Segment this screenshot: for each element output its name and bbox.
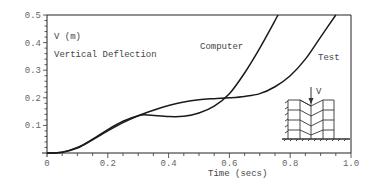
series-line-test xyxy=(47,15,336,153)
inset-load-label: V xyxy=(316,87,322,97)
x-axis: 00.20.40.60.81.0 xyxy=(44,153,359,169)
y-axis-label: V (m) xyxy=(54,32,81,42)
y-tick-label: 0.2 xyxy=(25,94,41,104)
chart: 0.10.20.30.40.5 00.20.40.60.81.0 V (m) V… xyxy=(0,0,378,189)
x-tick-label: 0.8 xyxy=(282,159,298,169)
series-line-computer xyxy=(47,15,278,153)
series-label-test: Test xyxy=(318,53,340,63)
x-tick-label: 1.0 xyxy=(343,159,359,169)
x-tick-label: 0.6 xyxy=(221,159,237,169)
x-tick-label: 0.2 xyxy=(100,159,116,169)
x-tick-label: 0 xyxy=(44,159,49,169)
y-tick-label: 0.1 xyxy=(25,121,41,131)
plot-area xyxy=(42,15,351,157)
x-tick-label: 0.4 xyxy=(160,159,176,169)
y-tick-label: 0.3 xyxy=(25,66,41,76)
series-lines xyxy=(47,15,336,153)
series-label-computer: Computer xyxy=(200,42,243,52)
y-axis: 0.10.20.30.40.5 xyxy=(25,11,47,147)
annotation-vertical-deflection: Vertical Deflection xyxy=(54,50,157,60)
y-tick-label: 0.4 xyxy=(25,39,41,49)
y-tick-label: 0.5 xyxy=(25,11,41,21)
x-axis-label: Time (secs) xyxy=(208,169,267,179)
